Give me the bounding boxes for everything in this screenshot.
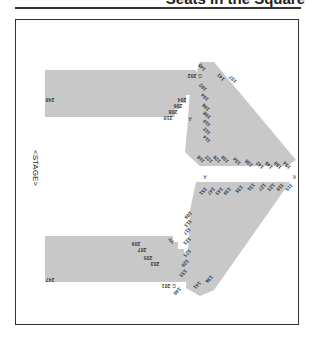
seat-label: 248 xyxy=(46,97,55,103)
seat-label: 206 xyxy=(174,103,183,109)
seating-map: <STAGE> 248 202 204 206 208 210 G A 247 … xyxy=(0,0,312,346)
seat-label: 201 xyxy=(162,283,171,289)
seat-label: 204 xyxy=(178,97,187,103)
seat-label: 205 xyxy=(144,255,153,261)
seat-label: 209 xyxy=(132,241,141,247)
row-letter: G xyxy=(172,283,176,289)
seat-label: 208 xyxy=(169,109,178,115)
seat-label: 207 xyxy=(138,247,147,253)
seat-label: 202 xyxy=(188,73,197,79)
stage-label: <STAGE> xyxy=(31,150,40,186)
lower-wedge-section[interactable] xyxy=(186,182,290,296)
seat-label: 247 xyxy=(46,277,55,283)
row-letter: G xyxy=(198,73,202,79)
seat-label: 210 xyxy=(164,115,173,121)
seat-label: 203 xyxy=(151,261,160,267)
